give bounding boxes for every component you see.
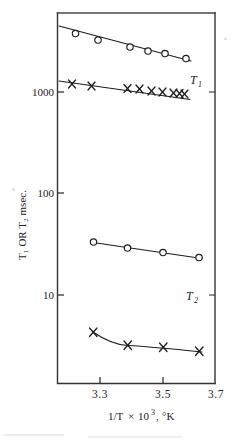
data-point (124, 245, 130, 251)
x-tick-label-3-7: 3.7 (208, 388, 224, 400)
semilog-plot-figure: 1000 100 10 3.3 3.5 3.7 1/T × 10 3 , °K … (0, 0, 240, 443)
x-axis-title-invt: 1/T (108, 410, 124, 422)
x-axis-title-exponent: 3 (151, 408, 155, 417)
figure-background (0, 0, 240, 443)
data-point (160, 249, 166, 255)
y-tick-label-1000: 1000 (32, 86, 55, 98)
scan-artifact (224, 38, 227, 40)
y-tick-label-10: 10 (43, 289, 55, 301)
y-tick-label-100: 100 (38, 187, 55, 199)
data-point (72, 30, 78, 36)
x-tick-label-3-3: 3.3 (92, 388, 108, 400)
y-axis-title-full: T₁ OR T₂ msec. (16, 190, 28, 260)
x-axis-title-comma: , (156, 410, 159, 422)
series-label-t2-subscript: 2 (194, 296, 198, 305)
scan-artifact (88, 436, 183, 438)
scan-artifact (4, 434, 64, 436)
x-axis-title-degk: °K (162, 410, 174, 422)
x-axis-title: 1/T × 10 3 , °K (108, 408, 174, 422)
data-point (90, 239, 96, 245)
data-point (183, 55, 189, 61)
y-axis-title: T₁ OR T₂ msec. (16, 190, 28, 260)
x-tick-label-3-5: 3.5 (155, 388, 171, 400)
data-point (162, 50, 168, 56)
data-point (196, 254, 202, 260)
scan-artifact (12, 188, 15, 191)
x-axis-title-base: 10 (138, 410, 150, 422)
series-label-t1-subscript: 1 (198, 80, 202, 89)
data-point (95, 37, 101, 43)
data-point (145, 48, 151, 54)
x-axis-title-times: × (128, 410, 134, 422)
data-point (127, 44, 133, 50)
